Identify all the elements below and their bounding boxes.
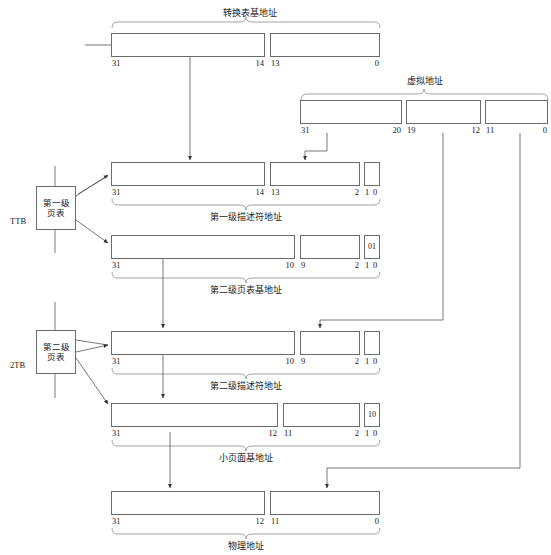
l1-descriptor-field-hi bbox=[111, 162, 265, 186]
l2-table-base-caption: 第二级页表基地址 bbox=[186, 285, 306, 296]
l2-descriptor-caption: 第二级描述符地址 bbox=[186, 381, 306, 392]
l1-descriptor-bit-14: 14 bbox=[215, 188, 264, 197]
virtual-address-bit-0: 0 bbox=[498, 126, 547, 135]
l1-descriptor-bit-0: 0 bbox=[373, 188, 377, 197]
l2-table-base-bit-1: 1 bbox=[365, 261, 369, 270]
level1-page-table-box: 第一级 页表 bbox=[36, 186, 76, 230]
ttb-base-bit-31: 31 bbox=[112, 59, 121, 68]
l2-table-base-field-mid bbox=[300, 235, 360, 259]
l2-table-base-field-hi bbox=[111, 235, 295, 259]
l1-descriptor-caption: 第一级描述符地址 bbox=[186, 212, 306, 223]
address-translation-diagram: 转换表基地址 31 14 13 0 虚拟地址 31 20 19 12 11 0 … bbox=[0, 0, 551, 555]
l1-descriptor-bit-1: 1 bbox=[365, 188, 369, 197]
physical-address-bit-31: 31 bbox=[112, 517, 121, 526]
physical-address-field-hi bbox=[111, 491, 265, 515]
ttb-base-bit-13: 13 bbox=[271, 59, 280, 68]
level2-page-table-line1: 第二级 bbox=[43, 342, 70, 352]
ttb-base-bit-0: 0 bbox=[330, 59, 379, 68]
virtual-address-bit-31: 31 bbox=[301, 126, 310, 135]
l2-descriptor-bit-9: 9 bbox=[301, 357, 305, 366]
l2-descriptor-bit-10: 10 bbox=[245, 357, 294, 366]
small-page-bit-1: 1 bbox=[365, 429, 369, 438]
virtual-address-bit-12: 12 bbox=[431, 126, 480, 135]
l1-descriptor-bit-2: 2 bbox=[310, 188, 359, 197]
level1-page-table-line2: 页表 bbox=[47, 208, 65, 218]
physical-address-field-lo bbox=[270, 491, 380, 515]
ttb-base-title: 转换表基地址 bbox=[190, 8, 310, 19]
level2-page-table-side-label: 2TB bbox=[10, 360, 25, 370]
level1-page-table-line1: 第一级 bbox=[43, 198, 70, 208]
l2-descriptor-field-flag bbox=[364, 331, 380, 355]
physical-address-caption: 物理地址 bbox=[206, 541, 286, 552]
l2-table-base-bit-0: 0 bbox=[373, 261, 377, 270]
l2-descriptor-bit-2: 2 bbox=[310, 357, 359, 366]
physical-address-bit-0: 0 bbox=[330, 517, 379, 526]
ttb-base-bit-14: 14 bbox=[215, 59, 264, 68]
l2-table-base-bit-2: 2 bbox=[310, 261, 359, 270]
virtual-address-bit-11: 11 bbox=[486, 126, 494, 135]
virtual-address-bit-19: 19 bbox=[407, 126, 416, 135]
small-page-bit-12: 12 bbox=[228, 429, 277, 438]
l2-descriptor-bit-1: 1 bbox=[365, 357, 369, 366]
ttb-base-field-lo bbox=[270, 33, 380, 57]
level1-page-table-side-label: TTB bbox=[10, 216, 26, 226]
level2-page-table-line2: 页表 bbox=[47, 352, 65, 362]
l1-descriptor-field-flag bbox=[364, 162, 380, 186]
small-page-field-mid bbox=[283, 403, 360, 427]
virtual-address-title: 虚拟地址 bbox=[385, 76, 465, 87]
small-page-bit-0: 0 bbox=[373, 429, 377, 438]
physical-address-bit-11: 11 bbox=[271, 517, 279, 526]
virtual-address-field-mid bbox=[406, 100, 481, 124]
l2-table-base-bit-31: 31 bbox=[112, 261, 121, 270]
l1-descriptor-bit-13: 13 bbox=[271, 188, 280, 197]
connector-layer bbox=[0, 0, 551, 555]
l1-descriptor-bit-31: 31 bbox=[112, 188, 121, 197]
ttb-base-field-hi bbox=[111, 33, 265, 57]
l2-table-base-bit-9: 9 bbox=[301, 261, 305, 270]
l2-descriptor-field-mid bbox=[300, 331, 360, 355]
small-page-bit-11: 11 bbox=[284, 429, 292, 438]
small-page-caption: 小页面基地址 bbox=[186, 453, 306, 464]
small-page-bit-31: 31 bbox=[112, 429, 121, 438]
small-page-field-hi bbox=[111, 403, 278, 427]
l2-table-base-bit-10: 10 bbox=[245, 261, 294, 270]
small-page-flag-value: 10 bbox=[364, 410, 380, 419]
virtual-address-field-hi bbox=[300, 100, 402, 124]
virtual-address-field-lo bbox=[485, 100, 548, 124]
l2-table-base-flag-value: 01 bbox=[364, 242, 380, 251]
virtual-address-bit-20: 20 bbox=[352, 126, 401, 135]
level2-page-table-box: 第二级 页表 bbox=[36, 330, 76, 374]
l1-descriptor-field-mid bbox=[270, 162, 360, 186]
small-page-bit-2: 2 bbox=[310, 429, 359, 438]
l2-descriptor-field-hi bbox=[111, 331, 295, 355]
l2-descriptor-bit-0: 0 bbox=[373, 357, 377, 366]
l2-descriptor-bit-31: 31 bbox=[112, 357, 121, 366]
physical-address-bit-12: 12 bbox=[215, 517, 264, 526]
